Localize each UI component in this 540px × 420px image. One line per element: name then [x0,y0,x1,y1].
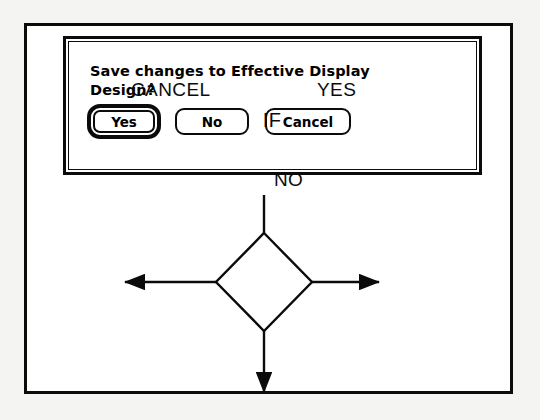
dialog-inner-border: Save changes to Effective Display Design… [68,41,477,170]
page-canvas: Save changes to Effective Display Design… [0,0,540,420]
illustration-frame: Save changes to Effective Display Design… [24,23,513,394]
no-button-label: No [202,114,223,130]
save-changes-dialog: Save changes to Effective Display Design… [63,36,482,175]
decision-diamond [216,233,312,331]
dialog-button-row: Yes No Cancel [87,108,367,135]
yes-button[interactable]: Yes [87,108,161,135]
no-button[interactable]: No [175,108,249,135]
yes-branch-label: YES [317,79,356,101]
decision-diamond-label: IF [242,109,302,132]
yes-button-label: Yes [93,114,155,130]
cancel-branch-label: CANCEL [131,79,210,101]
no-branch-label: NO [274,169,303,191]
